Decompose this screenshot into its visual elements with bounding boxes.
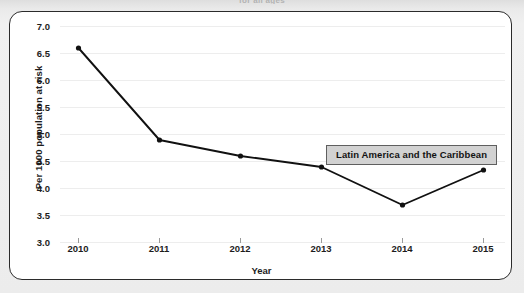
data-markers xyxy=(76,45,486,207)
x-tick-label: 2010 xyxy=(48,243,108,254)
data-line-latin-america-caribbean xyxy=(79,48,484,205)
x-tick-label: 2013 xyxy=(291,243,351,254)
data-point-2015 xyxy=(481,167,486,172)
clipped-chart-title: for all ages xyxy=(0,0,524,4)
x-tick-label: 2015 xyxy=(453,243,512,254)
chart-frame: Per 1000 population at risk 7.0 6.5 6.0 … xyxy=(9,11,512,280)
x-axis-title: Year xyxy=(10,265,512,276)
x-tick-label: 2012 xyxy=(210,243,270,254)
gridlines xyxy=(60,27,505,243)
legend-series-label: Latin America and the Caribbean xyxy=(326,145,497,165)
data-point-2014 xyxy=(400,202,405,207)
x-tick-label: 2011 xyxy=(129,243,189,254)
data-point-2012 xyxy=(238,153,243,158)
x-tick-label: 2014 xyxy=(372,243,432,254)
data-point-2011 xyxy=(157,137,162,142)
data-point-2010 xyxy=(76,45,81,50)
data-point-2013 xyxy=(319,164,324,169)
